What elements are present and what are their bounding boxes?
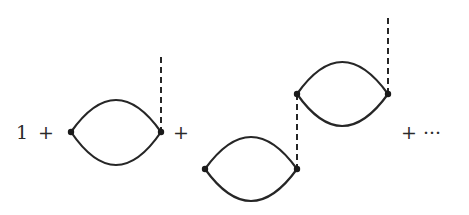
term-one: 1 bbox=[16, 121, 28, 143]
bubble1-left-vertex bbox=[68, 129, 74, 135]
bubble2-lower-left-vertex bbox=[202, 166, 208, 172]
bubble1-right-vertex bbox=[158, 129, 164, 135]
bubble2-lower-upper-propagator bbox=[205, 137, 297, 169]
plus-ellipsis: + ··· bbox=[401, 121, 441, 143]
bubble-series-diagram: 1 + + + ··· bbox=[0, 0, 469, 215]
bubble2-lower-right-vertex bbox=[294, 166, 300, 172]
bubble2-upper-left-vertex bbox=[294, 91, 300, 97]
diagram-canvas: 1 + + + ··· bbox=[0, 0, 469, 215]
bubble2-upper-upper-propagator bbox=[297, 62, 388, 94]
bubble2-upper-right-vertex bbox=[385, 91, 391, 97]
plus-sign-1: + bbox=[38, 121, 54, 143]
single-bubble-diagram bbox=[68, 57, 164, 165]
bubble1-upper-propagator bbox=[71, 100, 161, 132]
bubble2-lower-lower-propagator bbox=[205, 169, 297, 201]
double-bubble-diagram bbox=[202, 18, 391, 201]
plus-sign-2: + bbox=[173, 121, 189, 143]
bubble2-upper-lower-propagator bbox=[297, 94, 388, 126]
bubble1-lower-propagator bbox=[71, 132, 161, 165]
